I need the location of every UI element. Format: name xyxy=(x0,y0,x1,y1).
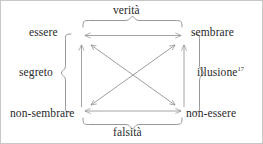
corner-label-non-sembrare: non-sembrare xyxy=(10,108,74,120)
semiotic-square-figure: essere sembrare non-sembrare non-essere … xyxy=(0,0,263,144)
corner-label-sembrare: sembrare xyxy=(191,27,234,39)
relation-label-segreto: segreto xyxy=(19,67,53,79)
top-brace xyxy=(83,17,182,28)
relation-label-verita: verità xyxy=(113,5,140,17)
footnote-marker-17: 17 xyxy=(238,65,245,72)
corner-label-essere: essere xyxy=(29,27,58,39)
left-brace xyxy=(62,34,72,112)
corner-label-non-essere: non-essere xyxy=(186,108,236,120)
relation-label-illusione-text: illusione xyxy=(197,66,238,78)
relation-label-falsita: falsità xyxy=(113,127,142,139)
relation-label-illusione: illusione17 xyxy=(197,67,244,79)
